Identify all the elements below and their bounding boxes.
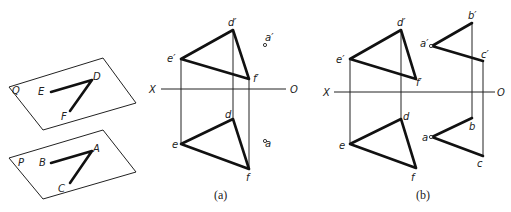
axis-x-label-b: X	[322, 87, 331, 98]
label-f-b: f	[411, 172, 416, 183]
panel-b: X O d′ e′ f′ a′ b′ c′ d e f a b c (b)	[322, 10, 505, 202]
caption-b: (b)	[416, 188, 430, 202]
label-a-prime-a: a′	[265, 32, 274, 43]
label-a-b: a	[422, 132, 428, 143]
caption-a: (a)	[214, 188, 227, 202]
label-e-b: e	[339, 140, 345, 151]
label-f-prime-b: f′	[416, 77, 423, 88]
label-d-a: d	[225, 109, 232, 120]
panel-a: X O d′ e′ f′ a′ d e f a (a)	[148, 17, 298, 202]
point-B-label: B	[39, 157, 46, 168]
plane-p: P B A C	[9, 130, 136, 199]
label-b-b: b	[469, 121, 475, 132]
label-b-prime-b: b′	[468, 10, 477, 21]
plane-q-label: Q	[12, 85, 20, 96]
point-A-label: A	[92, 143, 100, 154]
label-c-b: c	[477, 158, 483, 169]
label-f-prime-a: f′	[253, 73, 260, 84]
plane-q: Q E D F	[9, 58, 136, 130]
label-d-prime-a: d′	[228, 17, 237, 28]
label-e-prime-a: e′	[167, 53, 176, 64]
plane-p-label: P	[18, 157, 25, 168]
label-e-prime-b: e′	[336, 54, 345, 65]
projection-diagram: Q E D F P B A C X O d′ e′ f′ a′ d e f a …	[0, 0, 511, 212]
label-a-a: a	[265, 138, 271, 149]
point-C-label: C	[58, 183, 65, 194]
point-D-label: D	[93, 71, 101, 82]
label-c-prime-b: c′	[481, 49, 489, 60]
axis-o-label-b: O	[497, 87, 505, 98]
label-a-prime-b: a′	[420, 38, 429, 49]
point-E-label: E	[38, 86, 45, 97]
label-e-a: e	[172, 139, 178, 150]
axis-x-label-a: X	[148, 84, 157, 95]
label-d-prime-b: d′	[397, 17, 406, 28]
point-F-label: F	[61, 111, 67, 122]
label-f-a: f	[246, 172, 251, 183]
axis-o-label-a: O	[290, 84, 298, 95]
label-d-b: d	[403, 111, 410, 122]
